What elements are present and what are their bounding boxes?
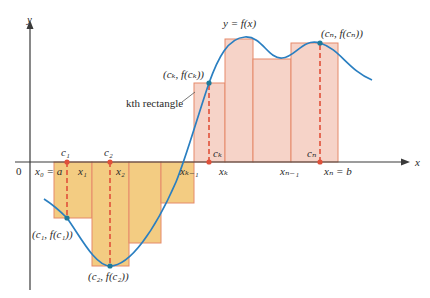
point-c1-on-curve: [64, 215, 69, 220]
point-ck-on-curve: [206, 80, 211, 85]
sample-label-c1: c₁: [61, 146, 70, 158]
point-c2-on-axis: [107, 159, 112, 164]
partition-label-xn-minus-1: xₙ₋₁: [279, 165, 299, 177]
partition-label-xk: xₖ: [218, 165, 228, 177]
y-axis-label: y: [26, 13, 32, 25]
point-cn-on-axis: [317, 159, 322, 164]
rectangle-3: [129, 162, 161, 243]
sample-label-c2: c₂: [104, 146, 113, 158]
point-label-ck: (cₖ, f(cₖ)): [163, 68, 204, 81]
point-c2-on-curve: [107, 263, 112, 268]
partition-label-x2: x₂: [115, 165, 125, 177]
x-axis-arrow-icon: [401, 159, 410, 166]
partition-label-xk-minus-1: xₖ₋₁: [179, 165, 199, 177]
rectangle-8: [291, 43, 338, 162]
point-label-cn: (cₙ, f(cₙ)): [321, 27, 363, 40]
partition-label-xn: xₙ = b: [323, 165, 352, 177]
point-ck-on-axis: [206, 159, 211, 164]
curve-label: y = f(x): [222, 17, 256, 30]
partition-label-x1: x₁: [77, 165, 87, 177]
point-label-c1: (c₁, f(c₁)): [32, 228, 73, 241]
sample-label-cn: cₙ: [307, 147, 316, 159]
sample-label-ck: cₖ: [213, 147, 222, 159]
kth-rectangle-leader: [182, 92, 195, 102]
rectangle-6: [225, 39, 253, 162]
riemann-sum-diagram: y x 0 y = f(x) x₀ = a x₁ x₂ xₖ₋₁ xₖ xₙ₋₁…: [0, 0, 430, 298]
origin-label: 0: [16, 165, 22, 177]
rectangle-7: [253, 59, 291, 162]
x-axis-label: x: [414, 156, 420, 168]
point-cn-on-curve: [317, 40, 322, 45]
point-c1-on-axis: [64, 159, 69, 164]
kth-rectangle-label: kth rectangle: [126, 97, 183, 109]
partition-label-x0: x₀ = a: [34, 165, 63, 177]
point-label-c2: (c₂, f(c₂)): [88, 270, 129, 283]
